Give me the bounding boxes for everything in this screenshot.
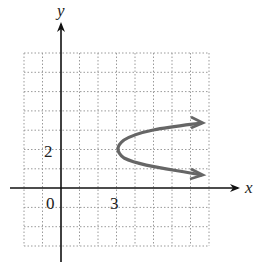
- x-axis-label: x: [244, 178, 253, 197]
- graph: y x 0 3 2: [0, 0, 267, 275]
- y-tick-label-2: 2: [44, 142, 53, 161]
- y-axis-label: y: [55, 1, 65, 20]
- x-tick-label-3: 3: [110, 194, 119, 213]
- origin-label: 0: [46, 194, 55, 213]
